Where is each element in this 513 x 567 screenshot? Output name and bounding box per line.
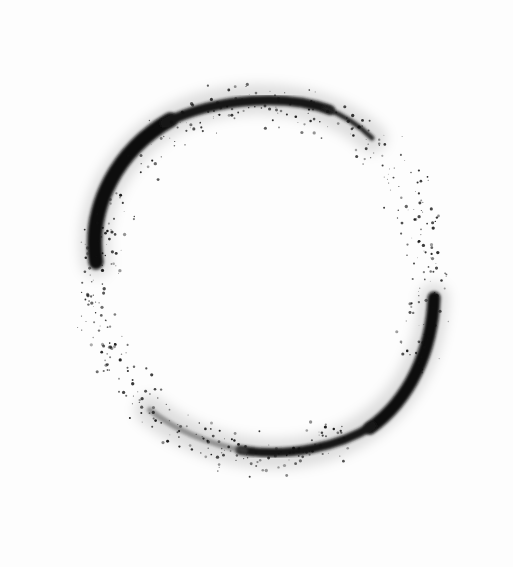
upper-arc bbox=[95, 99, 372, 262]
enso-artwork bbox=[0, 0, 513, 567]
image-canvas bbox=[0, 0, 513, 567]
lower-arc bbox=[150, 298, 434, 454]
